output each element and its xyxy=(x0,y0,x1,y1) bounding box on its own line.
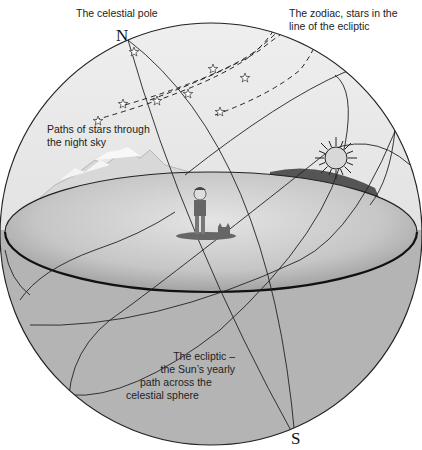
ecliptic-label-line1: The ecliptic – xyxy=(125,350,235,363)
zodiac-label-line1: The zodiac, stars in the xyxy=(289,7,398,20)
sun-icon xyxy=(315,137,357,179)
celestial-pole-label: The celestial pole xyxy=(76,7,158,20)
ecliptic-label-line2: the Sun’s yearly xyxy=(125,363,235,376)
ecliptic-label-line4: celestial sphere xyxy=(125,389,235,402)
north-pole-label: N xyxy=(116,26,128,46)
ecliptic-label-line3: path across the xyxy=(125,376,235,389)
zodiac-label-line2: line of the ecliptic xyxy=(289,20,398,33)
zodiac-label: The zodiac, stars in the line of the ecl… xyxy=(289,7,398,33)
star-paths-label-line2: the night sky xyxy=(47,136,150,149)
south-pole-label: S xyxy=(291,429,300,449)
ecliptic-label: The ecliptic – the Sun’s yearly path acr… xyxy=(125,350,235,402)
star-paths-label-line1: Paths of stars through xyxy=(47,123,150,136)
star-paths-label: Paths of stars through the night sky xyxy=(47,123,150,149)
